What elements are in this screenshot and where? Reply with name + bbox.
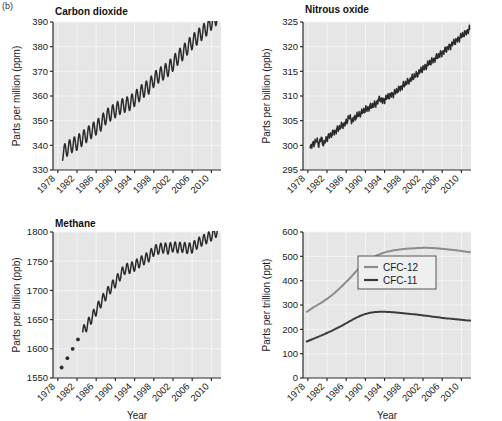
x-tick-label: 2006 xyxy=(419,381,442,404)
x-tick-label: 1998 xyxy=(380,381,403,404)
x-tick-label: 1994 xyxy=(361,381,384,404)
x-tick-label: 1978 xyxy=(284,381,307,404)
y-tick-label: 500 xyxy=(282,251,298,262)
legend-label: CFC-12 xyxy=(383,262,418,273)
greenhouse-gas-figure: (b) Carbon dioxide3303403503603703803901… xyxy=(0,0,502,421)
x-tick-label: 2002 xyxy=(400,381,423,404)
y-tick-label: 200 xyxy=(282,324,298,335)
y-tick-label: 300 xyxy=(282,299,298,310)
chart-cfcs: 0100200300400500600197819821986199019941… xyxy=(0,0,502,421)
x-tick-label: 2010 xyxy=(438,381,461,404)
y-tick-label: 600 xyxy=(282,226,298,237)
x-tick-label: 1990 xyxy=(342,381,365,404)
x-tick-label: 1982 xyxy=(304,381,327,404)
y-tick-label: 400 xyxy=(282,275,298,286)
y-tick-label: 100 xyxy=(282,348,298,359)
x-axis-title: Year xyxy=(377,410,398,421)
y-axis-title: Parts per trillion (ppt) xyxy=(261,259,272,352)
legend-label: CFC-11 xyxy=(383,275,418,286)
x-tick-label: 1986 xyxy=(323,381,346,404)
